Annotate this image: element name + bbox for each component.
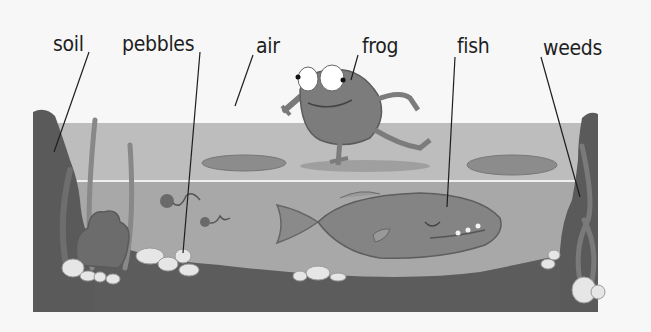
leader-air — [235, 55, 253, 106]
lily-pad-left — [202, 155, 286, 171]
frog-shadow — [300, 160, 430, 172]
label-pebbles: pebbles — [122, 34, 194, 55]
label-fish: fish — [457, 36, 490, 57]
label-air: air — [256, 36, 280, 57]
label-soil: soil — [53, 34, 84, 55]
label-weeds: weeds — [543, 38, 602, 59]
label-frog: frog — [362, 36, 398, 57]
lily-pad-right — [467, 155, 557, 175]
